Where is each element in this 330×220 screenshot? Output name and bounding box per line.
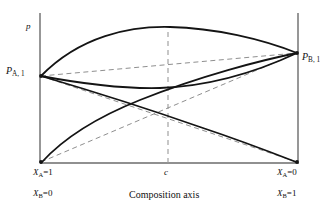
center-tick-label: c	[164, 168, 168, 177]
center-tick-text: c	[164, 167, 168, 177]
bottom-right-xb-label: XB=1	[277, 189, 296, 199]
x-axis-title: Composition axis	[129, 190, 199, 200]
left-vertex-label: PA, 1	[6, 66, 25, 78]
bottom-left-xb-label: XB=0	[33, 189, 52, 199]
vapor-composition-curve-lower	[41, 53, 297, 88]
right-vertex-label: PB, 1	[302, 52, 320, 64]
bottom-right-vertex-marker	[295, 160, 299, 164]
left-vertex-marker	[39, 74, 43, 78]
bottom-left-xa-value: =1	[43, 167, 53, 177]
raoult-tieline-top-line	[41, 53, 297, 76]
bottom-left-xa-label: XA=1	[33, 168, 53, 178]
bottom-left-xb-value: =0	[43, 188, 53, 198]
right-vertex-marker	[295, 51, 299, 55]
bottom-right-xa-value: =0	[287, 167, 297, 177]
right-vertex-subscript: B, 1	[308, 56, 320, 64]
y-axis-label-text: p	[26, 21, 31, 31]
vapor-pressure-composition-diagram: p PA, 1 PB, 1 XA=1 XB=0 XA=0 XB=1 c Comp…	[0, 0, 330, 220]
origin-vertex-marker	[39, 160, 43, 164]
plot-canvas	[0, 0, 330, 220]
bottom-right-xb-value: =1	[287, 188, 297, 198]
bottom-right-xa-label: XA=0	[277, 168, 297, 178]
left-vertex-subscript: A, 1	[12, 70, 24, 78]
y-axis-label: p	[26, 22, 31, 31]
